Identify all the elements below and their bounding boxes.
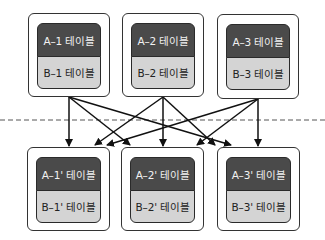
b-table-1: B–1 테이블 [37,56,101,89]
b-table-3-prime: B–3' 테이블 [226,190,291,223]
a-table-3: A–3 테이블 [226,24,290,58]
a-table-1-prime: A–1' 테이블 [36,157,101,191]
b-table-2-prime: B–2' 테이블 [130,190,195,223]
a-table-1: A–1 테이블 [37,23,101,57]
b-table-3: B–3 테이블 [226,57,290,90]
arrow-top1-to-bottom2 [69,97,130,145]
arrow-top3-to-bottom1 [107,99,258,145]
top-group-3: A–3 테이블 B–3 테이블 [217,14,299,99]
bottom-group-1: A–1' 테이블 B–1' 테이블 [27,147,110,231]
a-table-3-prime: A–3' 테이블 [226,157,291,191]
top-group-1: A–1 테이블 B–1 테이블 [28,13,110,97]
bottom-group-2: A–2' 테이블 B–2' 테이블 [121,147,204,231]
a-table-2: A–2 테이블 [131,23,195,57]
arrow-top3-to-bottom2 [197,99,258,145]
top-group-2: A–2 테이블 B–2 테이블 [122,13,204,97]
b-table-1-prime: B–1' 테이블 [36,190,101,223]
bottom-group-3: A–3' 테이블 B–3' 테이블 [217,147,300,231]
b-table-2: B–2 테이블 [131,56,195,89]
a-table-2-prime: A–2' 테이블 [130,157,195,191]
